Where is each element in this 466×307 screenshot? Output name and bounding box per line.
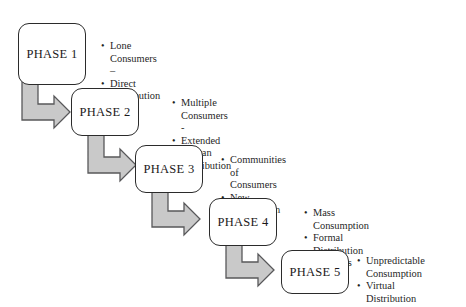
bullet-text: Unpredictable Consumption: [366, 255, 425, 280]
arrow-phase4-to-phase5: [226, 240, 274, 286]
list-item: • Unpredictable Consumption: [357, 255, 425, 280]
list-item: • Mass Consumption: [304, 207, 369, 232]
list-item: • Communities of Consumers: [221, 154, 286, 192]
phase-diagram: PHASE 1 • Lone Consumers – • Direct Dist…: [0, 0, 466, 307]
bullet-icon: •: [221, 154, 230, 167]
phase-label-2: PHASE 2: [79, 105, 130, 120]
bullet-text: Virtual Distribution: [366, 280, 425, 305]
list-item: • Virtual Distribution: [357, 280, 425, 305]
phase-box-4[interactable]: PHASE 4: [209, 198, 277, 246]
phase-box-2[interactable]: PHASE 2: [71, 88, 139, 136]
bullet-icon: •: [101, 40, 110, 53]
bullet-text: Multiple Consumers -: [181, 97, 231, 135]
bullet-text: Communities of Consumers: [230, 154, 286, 192]
bullet-icon: •: [357, 255, 366, 268]
bullet-icon: •: [357, 280, 366, 293]
arrow-phase3-to-phase4: [152, 187, 200, 235]
list-item: • Multiple Consumers -: [172, 97, 231, 135]
phase-label-5: PHASE 5: [289, 265, 340, 280]
phase-box-3[interactable]: PHASE 3: [135, 145, 203, 193]
arrow-phase2-to-phase3: [88, 130, 136, 181]
bullet-text: Lone Consumers –: [110, 40, 160, 78]
bullet-icon: •: [304, 232, 313, 245]
phase-bullets-5: • Unpredictable Consumption • Virtual Di…: [357, 255, 425, 305]
phase-label-4: PHASE 4: [217, 215, 268, 230]
bullet-text: Mass Consumption: [313, 207, 369, 232]
phase-label-3: PHASE 3: [143, 162, 194, 177]
phase-label-1: PHASE 1: [26, 47, 77, 62]
bullet-icon: •: [304, 207, 313, 220]
list-item: • Lone Consumers –: [101, 40, 160, 78]
bullet-icon: •: [172, 97, 181, 110]
phase-box-5[interactable]: PHASE 5: [281, 250, 349, 294]
phase-box-1[interactable]: PHASE 1: [18, 23, 86, 85]
